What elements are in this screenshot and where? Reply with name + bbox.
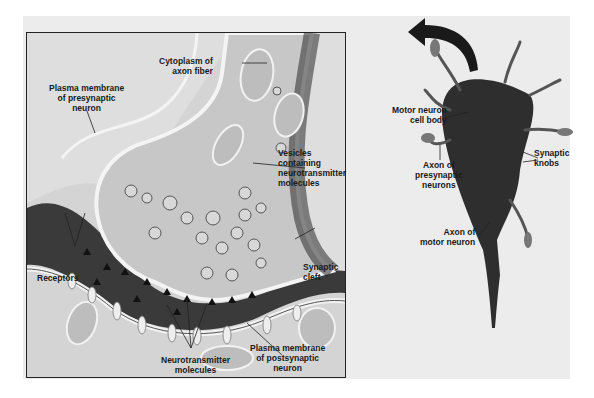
label-line: neuron <box>49 103 124 113</box>
label-line: presynaptic <box>415 170 463 180</box>
label-motor-axon: Axon of motor neuron <box>420 227 475 247</box>
label-presynaptic-axons: Axon of presynaptic neurons <box>415 160 463 190</box>
label-line: knobs <box>534 158 569 168</box>
label-line: axon fiber <box>159 66 213 76</box>
label-line: neurotransmitter <box>278 168 346 178</box>
label-neurotransmitter: Neurotransmitter molecules <box>161 355 230 375</box>
label-line: Plasma membrane <box>49 83 124 93</box>
label-synaptic-knobs: Synaptic knobs <box>534 148 569 168</box>
label-vesicles-outer: Vesicles containing neurotransmitter mol… <box>278 148 346 188</box>
label-presynaptic-membrane: Plasma membrane of presynaptic neuron <box>49 83 124 113</box>
label-line: of presynaptic <box>49 93 124 103</box>
label-line: neurons <box>415 180 463 190</box>
label-line: Cytoplasm of <box>159 56 213 66</box>
label-postsynaptic-membrane: Plasma membrane of postsynaptic neuron <box>250 343 325 373</box>
label-synaptic-cleft-outer: Synaptic cleft <box>303 262 338 282</box>
label-line: Axon of <box>420 227 475 237</box>
synapse-detail-inset: Cytoplasm of axon fiber Plasma membrane … <box>26 32 346 378</box>
label-line: Motor neuron <box>392 105 447 115</box>
label-line: Axon of <box>415 160 463 170</box>
label-line: molecules <box>278 178 346 188</box>
label-line: of postsynaptic <box>250 353 325 363</box>
label-motor-neuron-cell-body: Motor neuron cell body <box>392 105 447 125</box>
label-line: Neurotransmitter <box>161 355 230 365</box>
label-line: cleft <box>303 272 338 282</box>
label-line: Vesicles <box>278 148 346 158</box>
label-receptors: Receptors <box>37 273 79 283</box>
label-line: Plasma membrane <box>250 343 325 353</box>
label-line: containing <box>278 158 346 168</box>
label-line: Synaptic <box>534 148 569 158</box>
label-line: molecules <box>161 365 230 375</box>
label-line: Synaptic <box>303 262 338 272</box>
label-line: motor neuron <box>420 237 475 247</box>
label-line: neuron <box>250 363 325 373</box>
label-line: cell body <box>392 115 447 125</box>
label-cytoplasm: Cytoplasm of axon fiber <box>159 56 213 76</box>
